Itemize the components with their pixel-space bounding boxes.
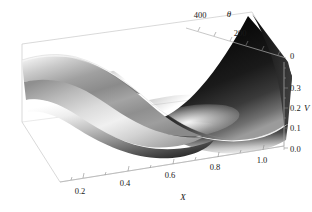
theta-axis-label: θ xyxy=(227,9,232,19)
v-tick-00: 0.0 xyxy=(290,144,301,154)
theta-tick-400: 400 xyxy=(194,10,207,20)
v-tick-labels: 0.3 0.2 0.1 0.0 xyxy=(290,83,301,154)
surface-plot-figure: 400 200 0 0.3 0.2 0.1 0.0 0.2 0.4 0.6 0.… xyxy=(0,0,312,212)
surface-mesh xyxy=(22,14,292,158)
x-tick-08: 0.8 xyxy=(210,162,221,172)
v-tick-03: 0.3 xyxy=(290,83,301,93)
v-axis-label: V xyxy=(304,103,311,113)
x-tick-labels: 0.2 0.4 0.6 0.8 1.0 xyxy=(75,155,268,196)
x-tick-10: 1.0 xyxy=(257,155,268,165)
theta-tick-0: 0 xyxy=(290,51,294,61)
plot-canvas: 400 200 0 0.3 0.2 0.1 0.0 0.2 0.4 0.6 0.… xyxy=(0,0,312,212)
x-axis-label: X xyxy=(179,192,186,202)
theta-tick-200: 200 xyxy=(234,28,247,38)
x-tick-06: 0.6 xyxy=(165,170,176,180)
v-tick-01: 0.1 xyxy=(290,123,301,133)
v-tick-02: 0.2 xyxy=(290,103,301,113)
x-tick-04: 0.4 xyxy=(120,178,131,188)
x-tick-02: 0.2 xyxy=(75,186,86,196)
